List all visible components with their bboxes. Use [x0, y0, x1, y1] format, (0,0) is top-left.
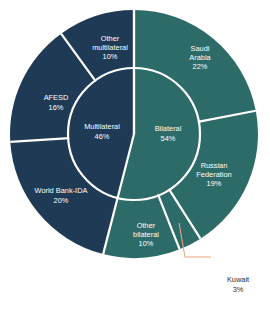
label-kuwait: Kuwait3% [227, 275, 249, 293]
chart-canvas: SaudiArabia22%RussianFederation19%Kuwait… [0, 0, 270, 311]
pie-chart: SaudiArabia22%RussianFederation19%Kuwait… [0, 0, 270, 311]
